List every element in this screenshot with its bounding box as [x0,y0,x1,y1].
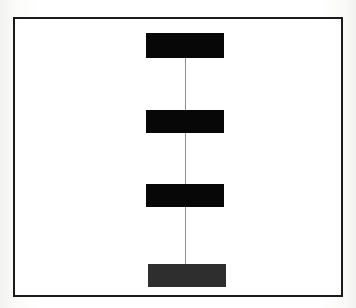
diagram-frame [13,17,343,297]
node-bar-4-label [148,264,226,287]
figure-canvas [0,0,356,308]
node-bar-1-label [146,33,224,58]
node-bar-2[interactable] [146,110,224,133]
node-bar-3-label [146,184,224,207]
node-bar-1[interactable] [146,33,224,58]
node-bar-3[interactable] [146,184,224,207]
connector-line [185,44,186,276]
node-bar-2-label [146,110,224,133]
node-bar-4[interactable] [148,264,226,287]
